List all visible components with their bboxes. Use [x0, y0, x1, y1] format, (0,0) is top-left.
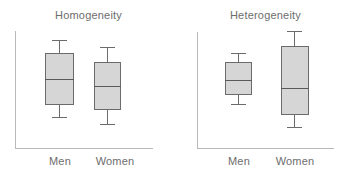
- x-tick-label-women: Women: [262, 155, 328, 167]
- box-rect: [281, 46, 309, 115]
- median-line: [281, 88, 309, 89]
- panel-heterogeneity: Heterogeneity Men Women: [177, 0, 354, 173]
- whisker-upper-cap: [287, 31, 302, 32]
- whisker-upper-line: [294, 31, 295, 46]
- panel-homogeneity: Homogeneity Men Women: [0, 0, 177, 173]
- median-line: [94, 86, 121, 87]
- whisker-lower-cap: [100, 124, 115, 125]
- whisker-lower-line: [294, 115, 295, 127]
- x-tick-label-men: Men: [213, 155, 265, 167]
- whisker-lower-cap: [287, 127, 302, 128]
- box-plot-figure: Homogeneity Men Women Heterogeneity: [0, 0, 354, 173]
- whisker-upper-line: [107, 47, 108, 62]
- whisker-upper-cap: [100, 47, 115, 48]
- x-tick-label-men: Men: [34, 155, 86, 167]
- box-heterogeneity-women: [177, 0, 354, 173]
- box-homogeneity-women: [0, 0, 177, 173]
- whisker-lower-line: [107, 110, 108, 124]
- x-tick-label-women: Women: [82, 155, 148, 167]
